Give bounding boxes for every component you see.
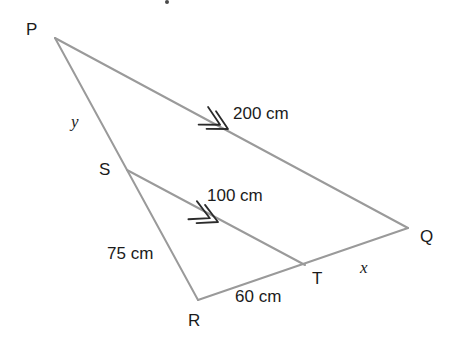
vertex-label-p: P <box>26 21 37 38</box>
label-200: 200 cm <box>233 105 289 122</box>
label-x: x <box>360 259 368 276</box>
vertex-label-q: Q <box>420 228 433 245</box>
tick-marks-group <box>188 107 232 231</box>
geometry-figure <box>0 0 455 339</box>
vertex-label-t: T <box>312 270 322 287</box>
label-75: 75 cm <box>107 245 153 262</box>
label-100: 100 cm <box>207 187 263 204</box>
vertex-label-r: R <box>188 312 200 329</box>
diagram-canvas: PQRST200 cm100 cm75 cm60 cmxy <box>0 0 455 339</box>
vertex-label-s: S <box>99 161 110 178</box>
label-y: y <box>71 113 79 130</box>
label-60: 60 cm <box>235 288 281 305</box>
tick-pq-double-chevron-icon <box>199 107 233 138</box>
top-edge-speck <box>165 0 169 4</box>
